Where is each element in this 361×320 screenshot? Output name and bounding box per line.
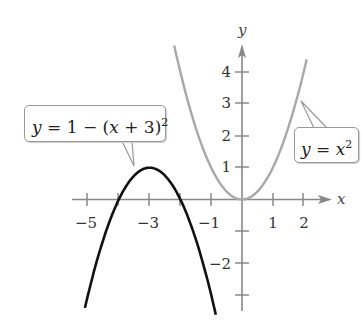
callout-exponent: 2 bbox=[345, 138, 352, 151]
x-axis-label: x bbox=[337, 190, 346, 208]
callout-mid: = 1 − ( bbox=[42, 117, 110, 137]
left-callout-pointer bbox=[122, 141, 134, 166]
callout-lhs: y bbox=[301, 139, 311, 159]
callout-lhs: y bbox=[32, 117, 42, 137]
y-tick-label-2: 2 bbox=[221, 127, 231, 145]
right-callout-pointer bbox=[301, 101, 327, 128]
parabola-y-equals-x-squared bbox=[174, 46, 307, 200]
parabola-shifted-reflected bbox=[85, 168, 216, 315]
y-tick-label-neg2: −2 bbox=[209, 255, 231, 273]
y-tick-label-3: 3 bbox=[221, 94, 231, 112]
x-tick-label-2: 2 bbox=[299, 214, 309, 232]
x-tick-label-neg1: −1 bbox=[198, 214, 220, 232]
right-equation-callout: y = x2 bbox=[294, 127, 359, 163]
callout-rest: + 3) bbox=[119, 117, 162, 137]
left-equation-callout: y = 1 − (x + 3)2 bbox=[24, 105, 166, 142]
x-tick-label-neg3: −3 bbox=[137, 214, 159, 232]
callout-mid: = bbox=[311, 139, 336, 159]
y-tick-label-4: 4 bbox=[221, 63, 231, 81]
y-axis-label: y bbox=[237, 21, 247, 39]
x-tick-label-neg5: −5 bbox=[75, 214, 97, 232]
callout-var: x bbox=[109, 117, 119, 137]
y-tick-label-1: 1 bbox=[221, 158, 231, 176]
callout-var: x bbox=[336, 139, 346, 159]
callout-exponent: 2 bbox=[161, 116, 168, 129]
x-tick-label-1: 1 bbox=[268, 214, 278, 232]
